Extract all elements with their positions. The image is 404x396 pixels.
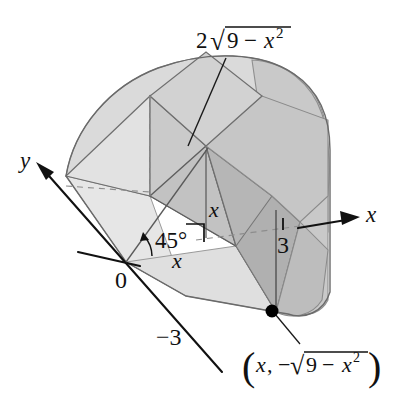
base-half-width-label: x bbox=[171, 248, 182, 273]
origin-label: 0 bbox=[115, 267, 127, 293]
solid-body-group bbox=[66, 52, 330, 316]
solid-of-revolution-diagram: 2 √ 9 − x 2 y x 0 45° x x 3 −3 ( x , − bbox=[0, 0, 404, 396]
cross-section-height-label: x bbox=[208, 197, 219, 222]
y-axis-label: y bbox=[18, 148, 31, 173]
point-callout-radical-sign: √ bbox=[290, 351, 305, 380]
point-callout-leading-minus: − bbox=[278, 352, 290, 377]
point-callout-inner-minus: − bbox=[322, 352, 334, 377]
tick-label-negative-three: −3 bbox=[156, 324, 182, 350]
x-axis-arrowhead bbox=[340, 211, 360, 225]
point-callout-label: ( x , − √ 9 − x 2 ) bbox=[242, 344, 381, 389]
point-callout-variable: x bbox=[341, 352, 352, 377]
point-callout-first-coord: x bbox=[255, 352, 266, 377]
point-callout-close-paren: ) bbox=[368, 344, 381, 389]
top-callout-radicand-nine: 9 bbox=[227, 28, 239, 53]
point-callout-radicand-nine: 9 bbox=[306, 352, 317, 377]
point-callout-leader-line bbox=[275, 314, 300, 344]
point-callout-open-paren: ( bbox=[242, 344, 255, 389]
top-callout-coefficient: 2 bbox=[196, 28, 208, 53]
top-callout-radical-sign: √ bbox=[210, 26, 225, 56]
tick-label-three: 3 bbox=[277, 232, 289, 258]
x-axis-label: x bbox=[365, 202, 377, 227]
base-point-dot bbox=[266, 305, 279, 318]
top-callout-variable: x bbox=[263, 28, 275, 53]
figure-root: 2 √ 9 − x 2 y x 0 45° x x 3 −3 ( x , − bbox=[0, 0, 404, 396]
point-callout-exponent: 2 bbox=[353, 350, 360, 365]
point-callout-comma: , bbox=[267, 352, 273, 377]
top-callout-label: 2 √ 9 − x 2 bbox=[196, 25, 291, 56]
top-callout-exponent: 2 bbox=[276, 25, 284, 41]
top-callout-minus: − bbox=[244, 28, 257, 53]
